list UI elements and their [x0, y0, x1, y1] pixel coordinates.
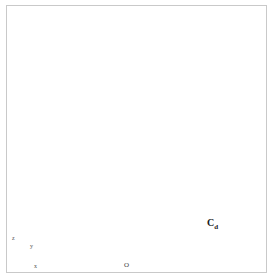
cd-label: Cd [207, 218, 218, 231]
figure-container: Cd O x y z [0, 0, 274, 280]
axis-y-label: y [30, 243, 33, 249]
axis-z-label: z [12, 235, 15, 241]
axis-x-label: x [34, 263, 37, 269]
figure-border [6, 5, 267, 273]
cd-label-subscript: d [214, 223, 218, 231]
origin-label: O [124, 262, 129, 269]
